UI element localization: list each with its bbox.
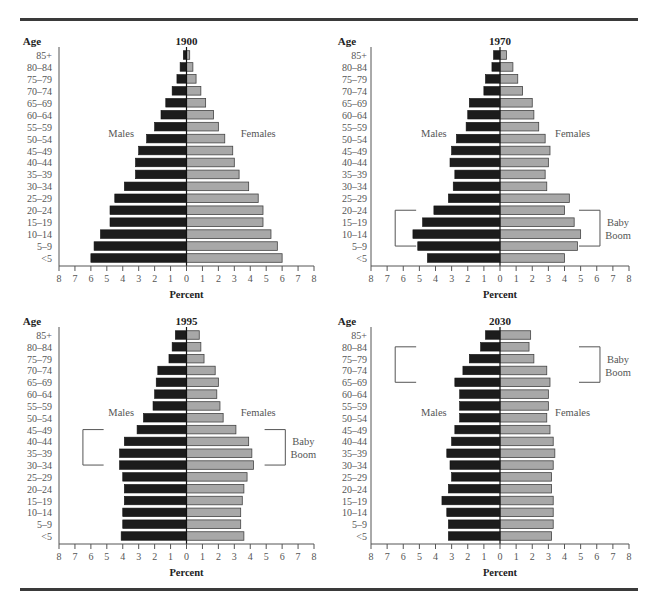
male-bar xyxy=(124,437,186,446)
female-bar xyxy=(500,331,531,340)
female-bar xyxy=(187,484,244,493)
male-bar xyxy=(460,402,500,411)
baby-boom-bracket-right xyxy=(579,210,600,246)
x-tick-label: 8 xyxy=(57,273,62,284)
female-bar xyxy=(187,230,271,239)
male-bar xyxy=(452,437,500,446)
age-tick-label: 20–24 xyxy=(27,205,52,216)
x-tick-label: 4 xyxy=(433,551,438,562)
male-bar xyxy=(485,331,500,340)
x-tick-label: 1 xyxy=(481,551,486,562)
age-tick-label: 60–64 xyxy=(27,389,52,400)
female-bar xyxy=(187,206,264,215)
baby-boom-label: Boom xyxy=(605,230,631,241)
age-tick-label: 20–24 xyxy=(27,484,52,495)
x-tick-label: 3 xyxy=(136,551,141,562)
age-tick-label: 40–44 xyxy=(342,157,367,168)
x-tick-label: 5 xyxy=(417,551,422,562)
male-bar xyxy=(120,449,187,458)
male-bar xyxy=(413,230,500,239)
male-bar xyxy=(455,425,500,434)
x-tick-label: 4 xyxy=(248,551,253,562)
female-bar xyxy=(500,425,550,434)
age-tick-label: 65–69 xyxy=(27,377,52,388)
x-tick-label: 3 xyxy=(449,273,454,284)
x-tick-label: 1 xyxy=(168,273,173,284)
age-tick-label: <5 xyxy=(356,531,367,542)
female-bar xyxy=(187,242,278,251)
male-bar xyxy=(460,414,500,423)
male-bar xyxy=(175,331,186,340)
age-tick-label: 25–29 xyxy=(27,193,52,204)
males-label: Males xyxy=(108,407,134,418)
x-axis-label: Percent xyxy=(169,289,204,300)
chart-title: 2030 xyxy=(489,315,512,327)
age-tick-label: 50–54 xyxy=(27,413,52,424)
age-tick-label: 75–79 xyxy=(27,354,52,365)
age-tick-label: 25–29 xyxy=(342,472,367,483)
age-tick-label: 65–69 xyxy=(342,98,367,109)
age-tick-label: 35–39 xyxy=(342,169,367,180)
male-bar xyxy=(484,87,500,96)
male-bar xyxy=(110,206,187,215)
male-bar xyxy=(137,425,186,434)
male-bar xyxy=(124,484,186,493)
female-bar xyxy=(187,449,252,458)
x-tick-label: 8 xyxy=(369,273,374,284)
x-tick-label: 1 xyxy=(200,273,205,284)
age-tick-label: 5–9 xyxy=(37,519,52,530)
female-bar xyxy=(500,496,553,505)
age-tick-label: 30–34 xyxy=(342,181,367,192)
age-tick-label: 80–84 xyxy=(27,342,52,353)
female-bar xyxy=(500,242,577,251)
female-bar xyxy=(500,158,548,167)
male-bar xyxy=(456,134,500,143)
chart-title: 1900 xyxy=(176,35,199,47)
x-tick-label: 0 xyxy=(498,551,503,562)
x-tick-label: 4 xyxy=(120,551,125,562)
age-tick-label: 40–44 xyxy=(27,157,52,168)
female-bar xyxy=(187,170,240,179)
x-tick-label: 4 xyxy=(562,551,567,562)
x-tick-label: 6 xyxy=(280,273,285,284)
male-bar xyxy=(427,254,500,263)
female-bar xyxy=(500,254,565,263)
population-pyramids: Age190085+80–8475–7970–7465–6960–6455–59… xyxy=(0,0,658,605)
x-tick-label: 3 xyxy=(232,551,237,562)
age-tick-label: 50–54 xyxy=(342,134,367,145)
age-tick-label: 5–9 xyxy=(37,241,52,252)
age-tick-label: 30–34 xyxy=(27,181,52,192)
female-bar xyxy=(187,254,283,263)
male-bar xyxy=(494,51,500,60)
male-bar xyxy=(124,182,186,191)
female-bar xyxy=(500,402,548,411)
age-tick-label: 10–14 xyxy=(27,229,52,240)
female-bar xyxy=(500,449,555,458)
female-bar xyxy=(187,182,249,191)
female-bar xyxy=(500,122,539,131)
female-bar xyxy=(187,532,244,541)
males-label: Males xyxy=(421,128,447,139)
x-tick-label: 6 xyxy=(88,273,93,284)
male-bar xyxy=(448,194,500,203)
age-tick-label: 55–59 xyxy=(27,122,52,133)
age-tick-label: 55–59 xyxy=(27,401,52,412)
male-bar xyxy=(155,122,187,131)
age-tick-label: <5 xyxy=(41,253,52,264)
age-tick-label: 35–39 xyxy=(342,448,367,459)
x-tick-label: 5 xyxy=(104,551,109,562)
female-bar xyxy=(500,354,534,363)
x-tick-label: 3 xyxy=(232,273,237,284)
age-tick-label: 5–9 xyxy=(352,519,367,530)
age-tick-label: 35–39 xyxy=(27,169,52,180)
age-tick-label: 70–74 xyxy=(27,86,52,97)
female-bar xyxy=(187,343,201,352)
age-tick-label: <5 xyxy=(356,253,367,264)
x-tick-label: 7 xyxy=(385,551,390,562)
male-bar xyxy=(121,532,186,541)
x-tick-label: 1 xyxy=(514,273,519,284)
pyramid-1970: Age197085+80–8475–7970–7465–6960–6455–59… xyxy=(338,35,632,300)
female-bar xyxy=(187,218,264,227)
x-tick-label: 6 xyxy=(401,273,406,284)
baby-boom-label: Baby xyxy=(607,217,630,228)
